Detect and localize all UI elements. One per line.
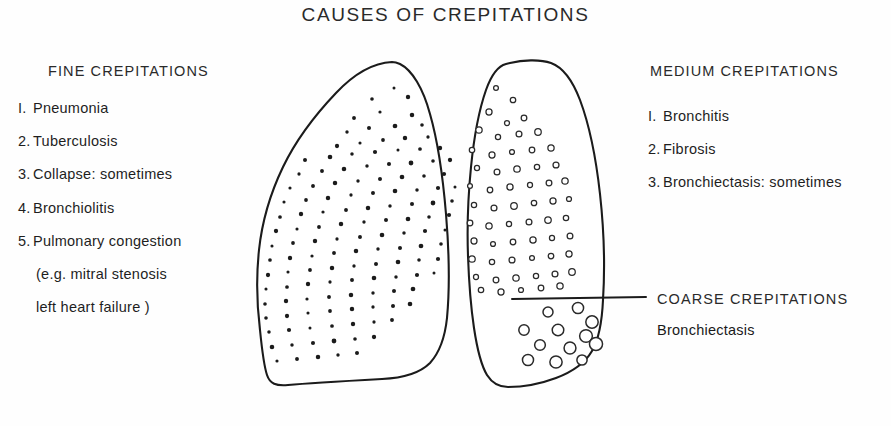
list-item: 3.Collapse: sometimes <box>18 166 172 182</box>
left-lung-outline <box>257 62 449 385</box>
list-item-label: Collapse: sometimes <box>33 166 172 182</box>
list-item-label: Bronchitis <box>663 108 729 124</box>
list-item-number: 5. <box>18 233 33 249</box>
list-item-sub-line: (e.g. mitral stenosis <box>36 266 167 282</box>
list-item: I.Pneumonia <box>18 100 109 116</box>
list-item: 2.Tuberculosis <box>18 133 118 149</box>
list-item-number: I. <box>18 100 33 116</box>
right-lung-outline <box>468 60 604 387</box>
coarse-crepitations-pointer-line <box>512 297 646 299</box>
list-item: 5.Pulmonary congestion <box>18 233 181 249</box>
fine-crepitations-heading: FINE CREPITATIONS <box>48 63 209 79</box>
list-item: 2.Fibrosis <box>648 141 716 157</box>
crepitations-diagram-page: CAUSES OF CREPITATIONS FINE CREPITATIONS… <box>0 0 891 426</box>
list-item-number: I. <box>648 108 663 124</box>
list-item-number: 2. <box>18 133 33 149</box>
fine-crepitation-dots <box>263 87 456 363</box>
list-item: I.Bronchitis <box>648 108 729 124</box>
medium-crepitations-heading: MEDIUM CREPITATIONS <box>650 63 839 79</box>
list-item: 3.Bronchiectasis: sometimes <box>648 174 842 190</box>
coarse-crepitations-heading: COARSE CREPITATIONS <box>657 291 848 307</box>
list-item-label: Pulmonary congestion <box>33 233 181 249</box>
medium-crepitation-circles <box>467 86 575 295</box>
list-item-label: Tuberculosis <box>33 133 118 149</box>
medium-crepitations-list: I.Bronchitis 2.Fibrosis 3.Bronchiectasis… <box>648 108 888 218</box>
list-item-number: 2. <box>648 141 663 157</box>
list-item-label: Bronchiectasis: sometimes <box>663 174 842 190</box>
list-item-number: 3. <box>648 174 663 190</box>
list-item-label: Bronchiolitis <box>33 200 114 216</box>
list-item: 4.Bronchiolitis <box>18 200 114 216</box>
list-item-label: Pneumonia <box>33 100 109 116</box>
list-item-number: 4. <box>18 200 33 216</box>
list-item-number: 3. <box>18 166 33 182</box>
coarse-crepitations-item: Bronchiectasis <box>657 322 755 338</box>
coarse-crepitation-circles <box>519 302 603 368</box>
page-title: CAUSES OF CREPITATIONS <box>0 4 891 26</box>
list-item-label: Fibrosis <box>663 141 716 157</box>
fine-crepitations-list: I.Pneumonia 2.Tuberculosis 3.Collapse: s… <box>18 100 268 360</box>
list-item-sub-line: left heart failure ) <box>36 299 150 315</box>
